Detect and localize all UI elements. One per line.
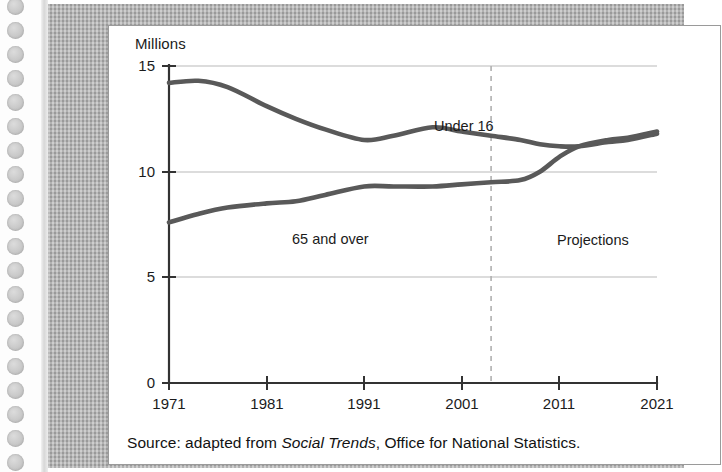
binding-hole	[7, 70, 24, 87]
y-tick-label-10: 10	[125, 163, 155, 180]
figure-frame: Millions	[48, 4, 684, 468]
binding-hole	[7, 190, 24, 207]
y-tick-label-0: 0	[125, 374, 155, 391]
series-line-65-and-over	[169, 132, 657, 223]
binding-hole	[7, 118, 24, 135]
x-tick-label-2001: 2001	[427, 395, 497, 412]
binding-hole	[7, 94, 24, 111]
x-tick-label-1981: 1981	[232, 395, 302, 412]
caption-publication-title: Social Trends	[281, 434, 375, 451]
binding-hole	[7, 358, 24, 375]
binding-hole	[7, 238, 24, 255]
figure-panel: Millions	[108, 25, 721, 465]
chart-plot-svg	[109, 26, 722, 424]
series-line-under-16	[169, 81, 657, 147]
binding-hole	[7, 406, 24, 423]
binding-hole	[7, 166, 24, 183]
binding-hole	[7, 0, 24, 15]
binding-hole	[7, 262, 24, 279]
binding-hole	[7, 430, 24, 447]
y-tick-label-15: 15	[125, 57, 155, 74]
projections-label: Projections	[557, 232, 629, 248]
caption-prefix: Source: adapted from	[127, 434, 281, 451]
x-tick-label-2011: 2011	[524, 395, 594, 412]
x-tick-label-2021: 2021	[622, 395, 692, 412]
binding-hole	[7, 382, 24, 399]
source-caption: Source: adapted from Social Trends, Offi…	[127, 434, 707, 452]
page-gutter-shadow	[41, 0, 48, 472]
spiral-binding-margin	[0, 0, 46, 472]
line-chart: Millions	[109, 26, 722, 424]
binding-hole	[7, 334, 24, 351]
binding-hole	[7, 454, 24, 471]
series-label-65-and-over: 65 and over	[292, 231, 369, 247]
binding-hole	[7, 310, 24, 327]
x-tick-label-1991: 1991	[329, 395, 399, 412]
binding-hole	[7, 214, 24, 231]
series-label-under-16: Under 16	[434, 118, 494, 134]
binding-hole	[7, 22, 24, 39]
binding-hole	[7, 286, 24, 303]
x-tick-label-1971: 1971	[134, 395, 204, 412]
caption-suffix: , Office for National Statistics.	[376, 434, 581, 451]
binding-hole	[7, 142, 24, 159]
y-tick-label-5: 5	[125, 268, 155, 285]
binding-hole	[7, 46, 24, 63]
